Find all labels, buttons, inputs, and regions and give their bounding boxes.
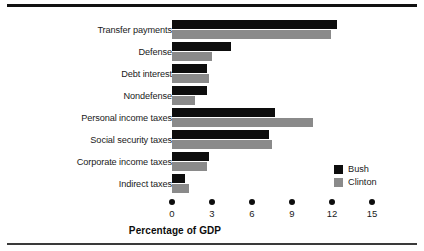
bar-clinton <box>172 162 207 171</box>
legend-label: Clinton <box>348 177 377 188</box>
chart-row: Transfer payments <box>0 19 424 41</box>
chart-row: Defense <box>0 41 424 63</box>
category-label: Nondefense <box>12 86 172 106</box>
x-tick-label: 9 <box>278 208 306 219</box>
x-tick-dot <box>249 199 255 205</box>
chart-row: Personal income taxes <box>0 107 424 129</box>
chart-figure: Transfer paymentsDefenseDebt interestNon… <box>0 0 424 251</box>
chart-row: Social security taxes <box>0 129 424 151</box>
bar-clinton <box>172 52 212 61</box>
x-tick-dot <box>329 199 335 205</box>
bar-clinton <box>172 184 189 193</box>
bar-bush <box>172 86 207 95</box>
bar-bush <box>172 108 275 117</box>
x-tick-dot <box>169 199 175 205</box>
bar-bush <box>172 64 207 73</box>
x-axis-title: Percentage of GDP <box>0 225 424 236</box>
bar-bush <box>172 130 269 139</box>
x-tick-label: 6 <box>238 208 266 219</box>
bar-bush <box>172 42 231 51</box>
x-tick-label: 0 <box>158 208 186 219</box>
category-label: Personal income taxes <box>12 108 172 128</box>
bar-clinton <box>172 30 331 39</box>
x-tick-dot <box>369 199 375 205</box>
x-tick-dot <box>209 199 215 205</box>
category-label: Defense <box>12 42 172 62</box>
legend-swatch-clinton <box>334 178 343 187</box>
x-tick-label: 12 <box>318 208 346 219</box>
bar-clinton <box>172 118 313 127</box>
x-tick-label: 3 <box>198 208 226 219</box>
chart-row: Nondefense <box>0 85 424 107</box>
bar-bush <box>172 174 185 183</box>
chart-row: Debt interest <box>0 63 424 85</box>
bar-clinton <box>172 74 209 83</box>
category-label: Indirect taxes <box>12 174 172 194</box>
category-label: Transfer payments <box>12 20 172 40</box>
x-tick-label: 15 <box>358 208 386 219</box>
bar-bush <box>172 152 209 161</box>
legend-label: Bush <box>348 164 369 175</box>
bar-bush <box>172 20 337 29</box>
category-label: Social security taxes <box>12 130 172 150</box>
bar-clinton <box>172 140 272 149</box>
legend-item: Clinton <box>334 177 418 188</box>
top-rule <box>7 4 417 7</box>
x-tick-dot <box>289 199 295 205</box>
legend-item: Bush <box>334 164 418 175</box>
bar-clinton <box>172 96 195 105</box>
legend-swatch-bush <box>334 165 343 174</box>
x-axis-title-text: Percentage of GDP <box>129 225 221 236</box>
x-axis: Percentage of GDP 03691215 <box>0 199 424 251</box>
chart-legend: BushClinton <box>334 164 418 190</box>
category-label: Corporate income taxes <box>12 152 172 172</box>
category-label: Debt interest <box>12 64 172 84</box>
